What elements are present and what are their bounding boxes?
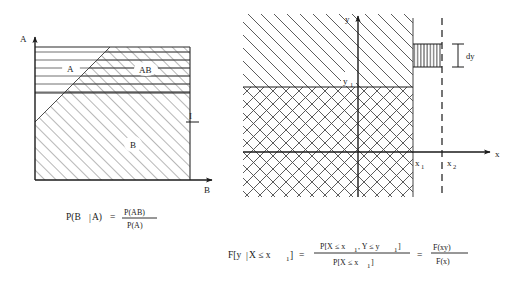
rf-lhs-bar: |: [246, 251, 248, 261]
right-formula: F[y | X ≤ x 1 ] = P[X ≤ x 1 , Y ≤ y 1 ] …: [228, 242, 468, 269]
lower-crosshatch-region: [243, 87, 413, 197]
rf-equals-1: =: [299, 250, 304, 260]
region-label-B: B: [130, 140, 136, 150]
left-formula: P(B | A) = P(AB) P(A): [66, 208, 157, 230]
dy-label: dy: [466, 51, 475, 61]
svg-text:1: 1: [350, 81, 353, 88]
right-panel: y x y 1 x 1 x 2 dy F[y | X ≤ x 1 ]: [228, 14, 500, 269]
upper-hatch-region: [243, 14, 413, 87]
rf-denominator-b: ]: [371, 258, 374, 267]
rf-numerator-sub2: 1: [394, 246, 397, 253]
svg-text:x: x: [415, 158, 420, 168]
region-label-AB: AB: [139, 65, 152, 75]
x1-tick-label: x 1: [415, 158, 424, 170]
svg-text:2: 2: [453, 163, 456, 170]
formula-equals: =: [110, 212, 115, 222]
formula-lhs: P(B: [66, 212, 81, 223]
rf-numerator-c: ]: [398, 242, 401, 251]
rf-lhs-b: X ≤ x: [249, 250, 271, 260]
axis-label-A: A: [20, 34, 27, 44]
rf-numerator-sub1: 1: [354, 246, 357, 253]
rf-denominator-a: P[X ≤ x: [333, 258, 358, 267]
rf-final-numerator: F(xy): [433, 243, 451, 252]
rf-lhs-sub: 1: [286, 255, 289, 262]
figure-root: A B A AB B I P(B | A) = P(AB) P(A): [0, 0, 529, 283]
formula-lhs-bar: |: [89, 213, 91, 223]
left-panel: A B A AB B I P(B | A) = P(AB) P(A): [20, 34, 212, 230]
axis-label-y: y: [345, 14, 350, 24]
axis-label-x: x: [495, 149, 500, 159]
region-label-I: I: [189, 111, 192, 121]
axis-label-B: B: [204, 185, 210, 195]
rf-final-denominator: F(x): [436, 257, 450, 266]
figure-canvas: A B A AB B I P(B | A) = P(AB) P(A): [0, 0, 529, 283]
rf-numerator-a: P[X ≤ x: [320, 242, 345, 251]
region-label-A: A: [67, 64, 74, 74]
svg-text:x: x: [447, 158, 452, 168]
x2-tick-label: x 2: [447, 158, 456, 170]
formula-denominator: P(A): [127, 221, 143, 230]
rf-lhs-c: ]: [290, 250, 293, 260]
rf-lhs-a: F[y: [228, 250, 241, 260]
formula-numerator: P(AB): [124, 208, 145, 217]
rf-numerator-b: , Y ≤ y: [358, 242, 380, 251]
rf-denominator-sub: 1: [367, 262, 370, 269]
formula-lhs-tail: A): [92, 212, 102, 223]
svg-text:y: y: [343, 76, 348, 86]
dy-strip-fill: [413, 44, 442, 67]
svg-text:1: 1: [421, 163, 424, 170]
rf-equals-2: =: [417, 250, 422, 260]
